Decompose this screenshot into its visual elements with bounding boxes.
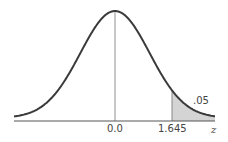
tick-label-critical: 1.645 (158, 124, 187, 134)
area-label: .05 (193, 96, 209, 106)
normal-curve-plot (0, 0, 228, 142)
density-curve (14, 11, 215, 116)
tick-label-mean: 0.0 (107, 124, 123, 134)
axis-label-z: z (211, 125, 216, 135)
